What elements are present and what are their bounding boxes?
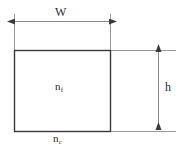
clad-index-base: n <box>53 132 59 144</box>
width-label: W <box>55 6 66 18</box>
core-index-subscript: f <box>61 86 63 93</box>
height-label: h <box>165 81 171 93</box>
waveguide-cross-section-diagram: W h nf nc <box>0 0 182 152</box>
clad-index-label: nc <box>53 133 62 144</box>
diagram-canvas <box>0 0 182 152</box>
core-index-label: nf <box>55 81 63 92</box>
core-index-base: n <box>55 80 61 92</box>
clad-index-subscript: c <box>59 138 62 145</box>
